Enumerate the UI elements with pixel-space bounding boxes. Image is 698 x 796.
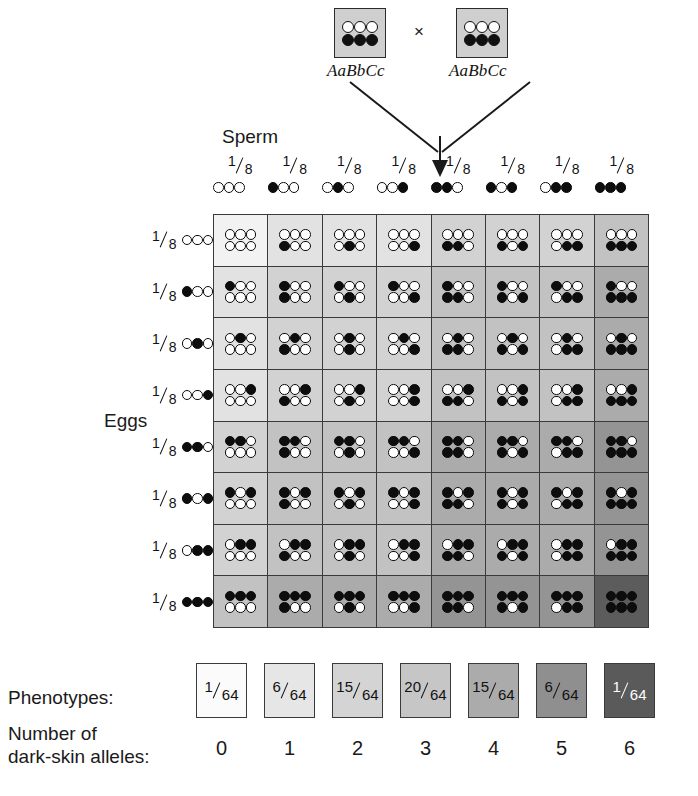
light-allele-icon: [334, 241, 345, 252]
light-allele-icon: [606, 384, 617, 395]
dark-allele-icon: [409, 539, 420, 550]
light-allele-icon: [409, 436, 420, 447]
light-allele-icon: [300, 602, 311, 613]
light-allele-icon: [290, 229, 301, 240]
egg-gamete-header-7: 18: [120, 576, 213, 628]
punnett-cell-r1-c7: [595, 267, 648, 318]
light-allele-icon: [342, 21, 354, 33]
dark-allele-icon: [442, 487, 453, 498]
dark-allele-icon: [562, 602, 573, 613]
light-allele-icon: [290, 384, 301, 395]
light-allele-icon: [225, 241, 236, 252]
light-allele-icon: [182, 235, 193, 246]
light-allele-icon: [192, 390, 203, 401]
dark-allele-icon: [497, 551, 508, 562]
punnett-cell-r4-c0: [214, 422, 267, 473]
light-allele-icon: [627, 333, 638, 344]
light-allele-icon: [235, 447, 246, 458]
egg-frequency-frac-6: 18: [152, 543, 177, 558]
punnett-cell-r6-c5: [486, 525, 539, 576]
light-allele-icon: [507, 241, 518, 252]
light-allele-icon: [507, 344, 518, 355]
parent-female-allele-row-top: [464, 21, 500, 33]
punnett-cell-egg-alleles-r4-c6: [551, 436, 583, 447]
sperm-frequency-frac-7-denominator: 8: [626, 162, 634, 176]
punnett-cell-r7-c0: [214, 576, 267, 627]
light-allele-icon: [409, 333, 420, 344]
sperm-frequency-5: 18: [486, 156, 541, 182]
sperm-frequency-frac-1: 18: [282, 158, 307, 173]
sperm-heading: Sperm: [222, 126, 278, 148]
punnett-cell-r2-c3: [377, 318, 430, 369]
phenotype-swatch-3: 2064: [400, 663, 451, 718]
dark-allele-icon: [300, 487, 311, 498]
light-allele-icon: [290, 292, 301, 303]
egg-frequency-frac-7-denominator: 8: [169, 599, 177, 613]
punnett-cell-r5-c4: [432, 473, 485, 524]
punnett-cell-sperm-alleles-r0-c6: [551, 241, 583, 252]
light-allele-icon: [463, 292, 474, 303]
punnett-cell-sperm-alleles-r3-c7: [606, 396, 638, 407]
dark-allele-icon: [518, 551, 529, 562]
light-allele-icon: [235, 344, 246, 355]
egg-gamete-header-5: 18: [120, 473, 213, 525]
punnett-cell-sperm-alleles-r2-c7: [606, 344, 638, 355]
light-allele-icon: [225, 447, 236, 458]
punnett-cell-sperm-alleles-r0-c3: [388, 241, 420, 252]
dark-allele-icon: [399, 539, 410, 550]
light-allele-icon: [551, 539, 562, 550]
punnett-cell-r6-c0: [214, 525, 267, 576]
egg-gamete-header-4: 18: [120, 421, 213, 473]
dark-allele-icon: [616, 292, 627, 303]
light-allele-icon: [496, 182, 507, 193]
sperm-frequency-frac-4-denominator: 8: [463, 162, 471, 176]
egg-frequency-frac-5: 18: [152, 491, 177, 506]
phenotype-swatch-5: 664: [536, 663, 587, 718]
dark-allele-count-6: 6: [604, 737, 655, 760]
punnett-cell-sperm-alleles-r5-c7: [606, 499, 638, 510]
light-allele-icon: [497, 539, 508, 550]
dark-allele-icon: [518, 241, 529, 252]
dark-allele-icon: [551, 182, 562, 193]
punnett-cell-r4-c4: [432, 422, 485, 473]
light-allele-icon: [290, 487, 301, 498]
light-allele-icon: [463, 436, 474, 447]
light-allele-icon: [399, 602, 410, 613]
punnett-cell-r2-c7: [595, 318, 648, 369]
punnett-cell-egg-alleles-r6-c6: [551, 539, 583, 550]
punnett-cell-egg-alleles-r7-c5: [497, 591, 529, 602]
egg-frequency-frac-6-denominator: 8: [169, 547, 177, 561]
light-allele-icon: [300, 436, 311, 447]
punnett-cell-sperm-alleles-r7-c0: [225, 602, 257, 613]
dark-allele-icon: [562, 436, 573, 447]
phenotype-frequency-2-bar: [353, 683, 362, 698]
punnett-cell-sperm-alleles-r5-c4: [442, 499, 474, 510]
punnett-cell-r1-c3: [377, 267, 430, 318]
punnett-cell-egg-alleles-r7-c1: [279, 591, 311, 602]
dark-allele-icon: [572, 344, 583, 355]
dark-allele-icon: [561, 182, 572, 193]
dark-allele-icon: [355, 539, 366, 550]
dark-allele-icon: [497, 292, 508, 303]
sperm-frequency-1: 18: [268, 156, 323, 182]
phenotype-frequency-5-numerator: 6: [544, 679, 552, 694]
dark-allele-icon: [572, 292, 583, 303]
dark-allele-icon: [572, 447, 583, 458]
phenotype-frequency-3: 2064: [404, 683, 446, 698]
dark-allele-icon: [518, 344, 529, 355]
phenotype-frequency-2: 1564: [336, 683, 378, 698]
punnett-cell-egg-alleles-r1-c6: [551, 281, 583, 292]
light-allele-icon: [551, 333, 562, 344]
dark-allele-icon: [388, 281, 399, 292]
punnett-cell-egg-alleles-r2-c5: [497, 333, 529, 344]
light-allele-icon: [551, 499, 562, 510]
egg-gamete-dots-1: [182, 286, 214, 297]
dark-allele-icon: [616, 241, 627, 252]
dark-allele-icon: [235, 333, 246, 344]
punnett-cell-egg-alleles-r5-c6: [551, 487, 583, 498]
light-allele-icon: [442, 384, 453, 395]
light-allele-icon: [225, 229, 236, 240]
light-allele-icon: [453, 281, 464, 292]
light-allele-icon: [627, 229, 638, 240]
punnett-cell-r0-c4: [432, 215, 485, 266]
